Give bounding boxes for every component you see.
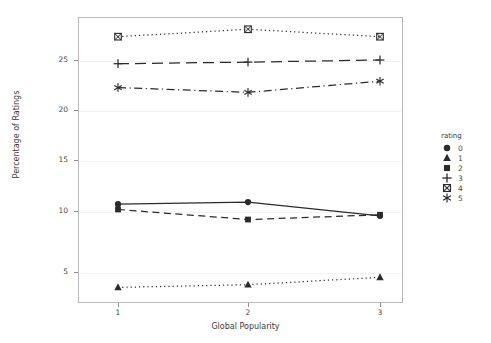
x-tick-mark <box>248 303 249 307</box>
legend-item-0[interactable]: 0 <box>440 143 486 153</box>
y-tick-mark <box>74 160 78 161</box>
y-tick-mark <box>74 272 78 273</box>
x-tick-mark <box>118 303 119 307</box>
x-tick-label: 1 <box>108 308 128 317</box>
legend-item-4[interactable]: 4 <box>440 183 486 193</box>
y-tick-label: 25 <box>42 56 68 64</box>
legend-item-label: 4 <box>454 184 463 193</box>
circle-marker-icon <box>440 143 454 153</box>
y-tick-label: 20 <box>42 106 68 114</box>
chart-canvas: 25 20 15 10 5 1 2 3 Percentage of Rating… <box>0 0 491 343</box>
legend-item-2[interactable]: 2 <box>440 163 486 173</box>
x-tick-label: 2 <box>238 308 258 317</box>
y-axis-title: Percentage of Ratings <box>12 75 21 195</box>
plot-area <box>78 17 403 303</box>
plus-marker-icon <box>440 173 454 183</box>
legend-title: rating <box>440 132 486 140</box>
y-tick-label: 5 <box>42 268 68 276</box>
legend-item-1[interactable]: 1 <box>440 153 486 163</box>
y-tick-mark <box>74 60 78 61</box>
x-tick-label: 3 <box>370 308 390 317</box>
gridline <box>79 161 402 162</box>
legend-item-label: 0 <box>454 144 463 153</box>
asterisk-marker-icon <box>440 193 454 203</box>
legend-item-label: 5 <box>454 194 463 203</box>
crossed-square-marker-icon <box>440 183 454 193</box>
legend-item-label: 1 <box>454 154 463 163</box>
y-tick-label: 10 <box>42 207 68 215</box>
gridline <box>79 61 402 62</box>
gridline <box>79 212 402 213</box>
gridline <box>79 111 402 112</box>
triangle-marker-icon <box>440 153 454 163</box>
y-tick-label: 15 <box>42 156 68 164</box>
gridline <box>79 273 402 274</box>
legend-item-label: 2 <box>454 164 463 173</box>
x-tick-mark <box>380 303 381 307</box>
legend-item-label: 3 <box>454 174 463 183</box>
legend-item-3[interactable]: 3 <box>440 173 486 183</box>
square-marker-icon <box>440 163 454 173</box>
x-axis-title: Global Popularity <box>0 322 491 331</box>
y-tick-mark <box>74 211 78 212</box>
legend: rating 012345 <box>440 132 486 203</box>
legend-item-5[interactable]: 5 <box>440 193 486 203</box>
y-tick-mark <box>74 110 78 111</box>
